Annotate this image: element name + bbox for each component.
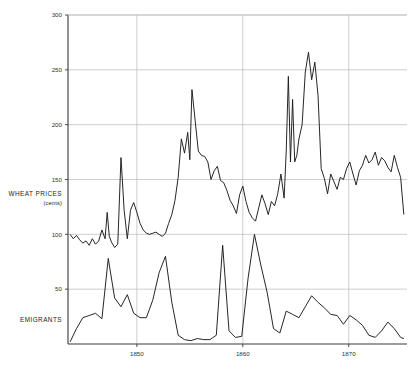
chart-container: 50100150200250300 185018601870 WHEAT PRI… xyxy=(0,0,418,371)
wheat-prices-units-label: (cents) xyxy=(44,200,63,206)
y-axis-tick-label: 50 xyxy=(55,285,62,292)
wheat-prices-emigrants-line-chart: 50100150200250300 185018601870 WHEAT PRI… xyxy=(0,0,418,371)
y-axis-tick-label: 300 xyxy=(52,11,63,18)
x-axis-tick-label: 1860 xyxy=(236,350,250,357)
y-axis-tick-label: 200 xyxy=(52,121,63,128)
y-axis-tick-label: 250 xyxy=(52,66,63,73)
y-axis-tick-label: 150 xyxy=(52,176,63,183)
y-axis-tick-label: 100 xyxy=(52,231,63,238)
emigrants-series-label: EMIGRANTS xyxy=(20,316,62,323)
x-axis-tick-label: 1850 xyxy=(130,350,144,357)
x-axis-tick-label: 1870 xyxy=(342,350,356,357)
chart-background xyxy=(0,0,418,371)
wheat-prices-series-label: WHEAT PRICES xyxy=(9,190,62,197)
